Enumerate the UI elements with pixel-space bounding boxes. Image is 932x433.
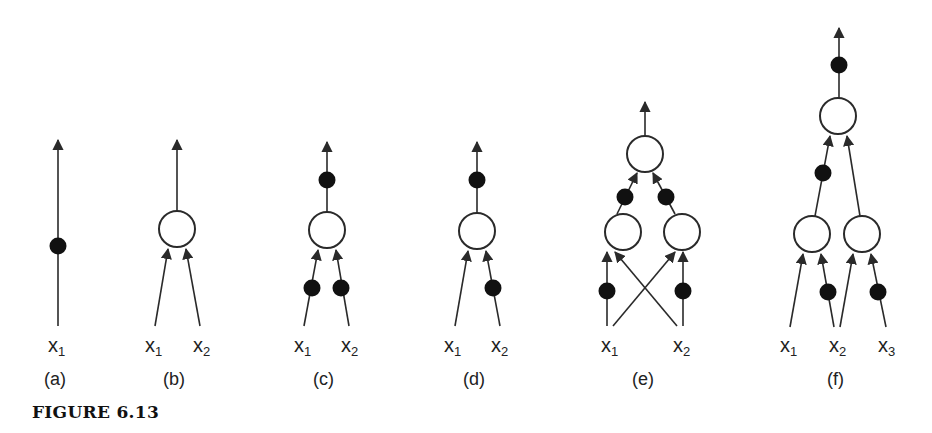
input-edge-icon: [840, 254, 853, 327]
weight-dot-icon: [675, 283, 692, 300]
input-label-x1: x1: [444, 334, 461, 359]
hidden-edge-icon: [847, 136, 860, 216]
figure-caption: FIGURE 6.13: [32, 402, 159, 422]
weight-dot-icon: [333, 280, 350, 297]
input-label-x2: x2: [193, 334, 210, 359]
node-circle-icon: [844, 216, 880, 252]
input-label-x1: x1: [294, 334, 311, 359]
panel-label-b: (b): [163, 369, 185, 389]
weight-dot-icon: [599, 283, 616, 300]
input-edge-icon: [790, 254, 803, 327]
weight-dot-icon: [658, 189, 675, 206]
input-label-x1: x1: [780, 334, 797, 359]
input-label-x1: x1: [48, 334, 65, 359]
node-circle-icon: [794, 216, 830, 252]
input-edge-icon: [613, 252, 675, 326]
figure-6-13: x1 (a) x1 x2 (b) x1 x2 (c) x1 x2 (d): [0, 0, 932, 433]
weight-dot-icon: [815, 165, 832, 182]
weight-dot-icon: [319, 172, 336, 189]
panel-b: x1 x2 (b): [145, 140, 210, 389]
input-edge-icon: [186, 249, 200, 326]
node-circle-icon: [820, 98, 856, 134]
weight-dot-icon: [50, 238, 67, 255]
panel-c: x1 x2 (c): [294, 142, 358, 389]
weight-dot-icon: [870, 284, 887, 301]
input-label-x2: x2: [829, 334, 846, 359]
weight-dot-icon: [617, 189, 634, 206]
input-label-x2: x2: [673, 334, 690, 359]
weight-dot-icon: [469, 172, 486, 189]
node-circle-icon: [159, 211, 195, 247]
input-label-x1: x1: [145, 334, 162, 359]
input-label-x3: x3: [878, 334, 895, 359]
input-edge-icon: [455, 251, 468, 326]
panel-e: x1 x2 (e): [599, 102, 701, 389]
weight-dot-icon: [820, 284, 837, 301]
weight-dot-icon: [485, 280, 502, 297]
node-circle-icon: [664, 214, 700, 250]
panel-label-d: (d): [463, 369, 485, 389]
node-circle-icon: [627, 136, 663, 172]
panel-label-e: (e): [632, 369, 654, 389]
input-label-x2: x2: [491, 334, 508, 359]
panel-f: x1 x2 x3 (f): [780, 28, 895, 389]
node-circle-icon: [309, 212, 345, 248]
node-circle-icon: [605, 214, 641, 250]
panel-label-c: (c): [313, 369, 334, 389]
weight-dot-icon: [304, 280, 321, 297]
weight-dot-icon: [831, 57, 848, 74]
panel-a: x1 (a): [44, 140, 67, 389]
input-label-x1: x1: [601, 334, 618, 359]
input-edge-icon: [155, 249, 168, 326]
node-circle-icon: [459, 213, 495, 249]
panel-label-a: (a): [44, 369, 66, 389]
panel-label-f: (f): [827, 369, 844, 389]
input-edge-icon: [615, 252, 677, 326]
panel-d: x1 x2 (d): [444, 142, 508, 389]
input-label-x2: x2: [341, 334, 358, 359]
